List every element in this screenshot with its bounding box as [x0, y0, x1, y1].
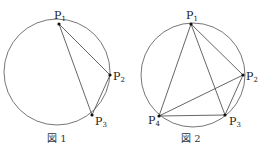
label-p1: P1: [186, 9, 198, 23]
segment-p1-p2: [59, 24, 110, 75]
segment-p1-p4: [159, 24, 191, 116]
caption-figure-1: 図 1: [47, 133, 67, 144]
circle: [141, 23, 245, 127]
label-p2: P2: [113, 70, 125, 84]
point-p1: [57, 22, 60, 25]
caption-figure-2: 図 2: [181, 133, 201, 144]
segment-p1-p2: [191, 24, 243, 75]
segment-p3-p4: [159, 115, 225, 116]
figure-2: P1 P2 P3 P4 図 2: [141, 9, 258, 144]
circle: [4, 19, 110, 125]
diagram-canvas: P1 P2 P3 図 1 P1 P2 P3 P4 図 2: [0, 0, 258, 151]
segment-p2-p4: [159, 75, 243, 116]
point-p3: [223, 113, 226, 116]
point-p3: [90, 113, 93, 116]
segment-p1-p3: [191, 24, 225, 115]
segment-p2-p3: [225, 75, 243, 115]
segment-p1-p3: [59, 24, 92, 115]
point-p2: [108, 73, 111, 76]
figure-1: P1 P2 P3 図 1: [4, 9, 125, 144]
label-p3: P3: [229, 115, 241, 129]
segment-p2-p3: [92, 75, 110, 115]
label-p3: P3: [95, 115, 107, 129]
label-p1: P1: [54, 9, 66, 23]
point-p4: [157, 114, 160, 117]
point-p1: [189, 22, 192, 25]
point-p2: [241, 73, 244, 76]
label-p2: P2: [246, 70, 258, 84]
